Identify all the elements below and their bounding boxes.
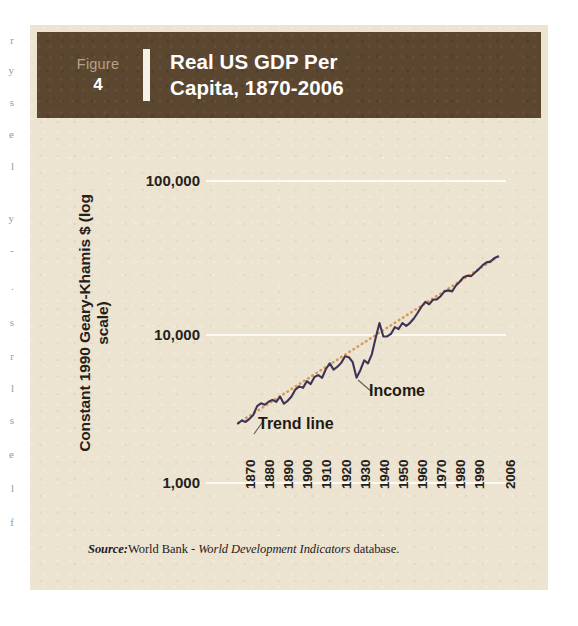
figure-label-block: Figure 4 xyxy=(59,56,137,94)
y-axis-title: Constant 1990 Geary-Khamis $ (log scale) xyxy=(76,173,112,473)
x-tick-label-1870: 1870 xyxy=(243,460,258,489)
x-tick-label-1950: 1950 xyxy=(396,460,411,489)
y-tick-label-1000: 1,000 xyxy=(162,474,200,491)
annotation-income: Income xyxy=(369,382,425,400)
source-italic-title: World Development Indicators xyxy=(198,542,350,556)
x-tick-label-1920: 1920 xyxy=(339,460,354,489)
x-tick-label-1900: 1900 xyxy=(300,460,315,489)
x-tick-label-1940: 1940 xyxy=(377,460,392,489)
annotation-trend-line: Trend line xyxy=(258,415,334,433)
header-divider xyxy=(143,49,150,101)
source-publisher: World Bank - xyxy=(128,542,198,556)
x-tick-label-1890: 1890 xyxy=(281,460,296,489)
source-note: Source:World Bank - World Development In… xyxy=(88,542,399,557)
source-prefix: Source: xyxy=(88,542,128,556)
source-suffix: database. xyxy=(350,542,399,556)
y-tick-label-100000: 100,000 xyxy=(146,172,200,189)
figure-panel: Figure 4 Real US GDP Per Capita, 1870-20… xyxy=(30,25,548,590)
x-tick-label-1960: 1960 xyxy=(415,460,430,489)
x-tick-label-1930: 1930 xyxy=(358,460,373,489)
figure-number-label: 4 xyxy=(59,75,137,94)
x-tick-label-2006: 2006 xyxy=(503,460,518,489)
x-tick-label-1980: 1980 xyxy=(453,460,468,489)
figure-header-band: Figure 4 Real US GDP Per Capita, 1870-20… xyxy=(37,32,541,118)
figure-word-label: Figure xyxy=(59,56,137,72)
y-tick-label-10000: 10,000 xyxy=(154,326,200,343)
x-tick-label-1990: 1990 xyxy=(472,460,487,489)
x-tick-label-1970: 1970 xyxy=(434,460,449,489)
figure-title: Real US GDP Per Capita, 1870-2006 xyxy=(170,49,344,101)
x-axis-tick-labels: 1870188018901900191019201930194019501960… xyxy=(206,327,516,397)
page-margin-fragments: r y s e l y - . s r l s e l f xyxy=(0,0,14,626)
x-tick-label-1880: 1880 xyxy=(262,460,277,489)
x-tick-label-1910: 1910 xyxy=(319,460,334,489)
